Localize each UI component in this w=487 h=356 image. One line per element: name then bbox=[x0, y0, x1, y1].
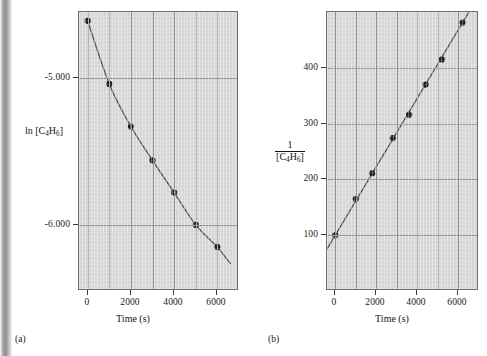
data-trend-line bbox=[327, 12, 474, 256]
data-point bbox=[369, 170, 375, 176]
panel-caption-b: (b) bbox=[268, 334, 279, 344]
x-axis-label-b: Time (s) bbox=[375, 313, 409, 324]
book-page-edge bbox=[0, 0, 12, 356]
y-axis-tick bbox=[321, 234, 326, 235]
data-point bbox=[459, 20, 465, 26]
y-axis-tick-label: -5.000 bbox=[30, 72, 70, 82]
y-axis-label-b-numerator: 1 bbox=[275, 140, 305, 151]
y-axis-tick bbox=[321, 123, 326, 124]
figure-root: 0200040006000-5.000-6.000 ln [C4H6] Time… bbox=[0, 0, 487, 356]
series-curve-a bbox=[79, 12, 238, 290]
plot-area-a bbox=[78, 11, 238, 290]
x-axis-tick bbox=[457, 290, 458, 295]
x-axis-tick bbox=[375, 290, 376, 295]
y-axis-label-b: 1 [C4H6] bbox=[262, 140, 318, 164]
x-axis-tick bbox=[334, 290, 335, 295]
x-axis-tick-label: 2000 bbox=[120, 297, 139, 307]
y-axis-label-b-fraction: 1 [C4H6] bbox=[275, 140, 305, 164]
y-axis-tick bbox=[73, 224, 78, 225]
data-point bbox=[422, 81, 428, 87]
data-point bbox=[406, 112, 412, 118]
x-axis-tick-label: 6000 bbox=[447, 297, 466, 307]
gridline-vertical bbox=[397, 12, 398, 289]
y-axis-label-a: ln [C4H6] bbox=[14, 126, 74, 138]
gridline-vertical bbox=[174, 12, 175, 289]
gridline-vertical bbox=[131, 12, 132, 289]
y-axis-tick-label: 200 bbox=[278, 173, 318, 183]
gridline-horizontal bbox=[79, 225, 237, 226]
gridline-vertical bbox=[109, 12, 110, 289]
gridline-vertical bbox=[376, 12, 377, 289]
x-axis-tick-label: 4000 bbox=[163, 297, 182, 307]
series-line-b bbox=[327, 12, 478, 290]
y-axis-tick-label: 400 bbox=[278, 62, 318, 72]
x-axis-tick bbox=[130, 290, 131, 295]
gridline-vertical bbox=[438, 12, 439, 289]
gridline-horizontal bbox=[327, 179, 477, 180]
x-axis-tick-label: 0 bbox=[85, 297, 90, 307]
x-axis-tick bbox=[87, 290, 88, 295]
x-axis-label-a: Time (s) bbox=[116, 313, 150, 324]
plot-area-b bbox=[326, 11, 478, 290]
x-axis-tick-label: 6000 bbox=[206, 297, 225, 307]
x-axis-tick bbox=[416, 290, 417, 295]
plot-canvas-a bbox=[79, 12, 237, 289]
gridline-vertical bbox=[417, 12, 418, 289]
x-axis-tick bbox=[173, 290, 174, 295]
gridline-vertical bbox=[217, 12, 218, 289]
plot-canvas-b bbox=[327, 12, 477, 289]
x-axis-tick-label: 0 bbox=[332, 297, 337, 307]
y-axis-tick-label: 300 bbox=[278, 118, 318, 128]
x-axis-tick bbox=[216, 290, 217, 295]
y-axis-tick bbox=[321, 67, 326, 68]
panel-caption-a: (a) bbox=[15, 334, 26, 344]
gridline-vertical bbox=[458, 12, 459, 289]
y-axis-tick bbox=[321, 178, 326, 179]
data-point bbox=[439, 56, 445, 62]
gridline-vertical bbox=[88, 12, 89, 289]
gridline-vertical bbox=[356, 12, 357, 289]
gridline-vertical bbox=[196, 12, 197, 289]
y-axis-tick-label: 100 bbox=[278, 229, 318, 239]
y-axis-label-b-denominator: [C4H6] bbox=[275, 151, 305, 164]
gridline-horizontal bbox=[327, 68, 477, 69]
gridline-vertical bbox=[335, 12, 336, 289]
gridline-horizontal bbox=[79, 78, 237, 79]
gridline-horizontal bbox=[327, 235, 477, 236]
x-axis-tick-label: 4000 bbox=[406, 297, 425, 307]
data-point bbox=[390, 135, 396, 141]
gridline-vertical bbox=[153, 12, 154, 289]
y-axis-tick-label: -6.000 bbox=[30, 219, 70, 229]
y-axis-label-a-text: ln [C4H6] bbox=[25, 125, 63, 136]
gridline-horizontal bbox=[327, 124, 477, 125]
y-axis-tick bbox=[73, 77, 78, 78]
x-axis-tick-label: 2000 bbox=[365, 297, 384, 307]
